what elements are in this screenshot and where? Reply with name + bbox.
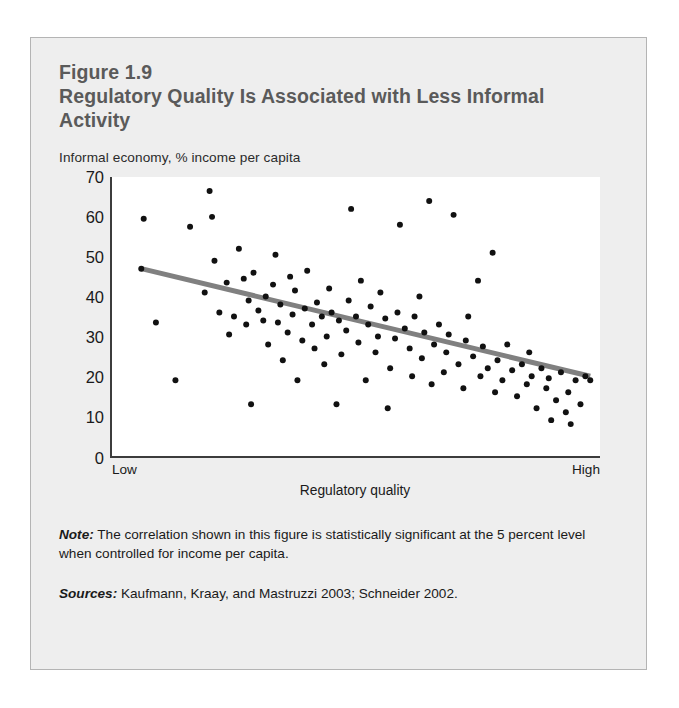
data-point [333, 401, 339, 407]
data-point [346, 297, 352, 303]
data-point [243, 321, 249, 327]
data-points-group [138, 187, 593, 426]
data-point [573, 377, 579, 383]
data-point [553, 397, 559, 403]
data-point [285, 329, 291, 335]
data-point [419, 355, 425, 361]
data-point [236, 245, 242, 251]
data-point [524, 381, 530, 387]
data-point [324, 333, 330, 339]
data-point [309, 321, 315, 327]
data-point [277, 301, 283, 307]
data-point [343, 327, 349, 333]
data-point [348, 205, 354, 211]
data-point [287, 273, 293, 279]
data-point [202, 289, 208, 295]
data-point [409, 373, 415, 379]
data-point [336, 317, 342, 323]
data-point [141, 215, 147, 221]
data-point [504, 341, 510, 347]
data-point [529, 373, 535, 379]
y-axis-tick-label: 30 [60, 328, 104, 347]
data-point [321, 361, 327, 367]
y-axis-tick-label: 50 [60, 247, 104, 266]
data-point [302, 305, 308, 311]
data-point [255, 307, 261, 313]
data-point [558, 369, 564, 375]
data-point [368, 303, 374, 309]
data-point [426, 197, 432, 203]
data-point [358, 277, 364, 283]
sources-lead: Sources: [59, 586, 117, 601]
data-point [499, 377, 505, 383]
data-point [211, 257, 217, 263]
data-point [538, 365, 544, 371]
data-point [577, 401, 583, 407]
data-point [231, 313, 237, 319]
data-point [138, 265, 144, 271]
data-point [338, 351, 344, 357]
y-axis-tick-label: 70 [60, 167, 104, 186]
data-point [465, 313, 471, 319]
data-point [365, 321, 371, 327]
data-point [495, 357, 501, 363]
data-point [397, 221, 403, 227]
data-point [402, 325, 408, 331]
data-point [312, 345, 318, 351]
y-axis-tick-label: 10 [60, 408, 104, 427]
data-point [216, 309, 222, 315]
data-point [375, 333, 381, 339]
data-point [565, 389, 571, 395]
sources-text: Kaufmann, Kraay, and Mastruzzi 2003; Sch… [117, 586, 458, 601]
note-text: The correlation shown in this figure is … [59, 527, 585, 562]
y-axis-tick-labels: 010203040506070 [59, 177, 104, 458]
data-point [387, 365, 393, 371]
data-point [299, 337, 305, 343]
figure-note: Note: The correlation shown in this figu… [59, 525, 607, 565]
data-point [392, 335, 398, 341]
data-point [385, 405, 391, 411]
data-point [265, 341, 271, 347]
data-point [251, 269, 257, 275]
data-point [431, 341, 437, 347]
data-point [568, 421, 574, 427]
data-point [446, 331, 452, 337]
data-point [548, 417, 554, 423]
data-point [363, 377, 369, 383]
data-point [534, 405, 540, 411]
data-point [526, 349, 532, 355]
data-point [272, 251, 278, 257]
data-point [455, 361, 461, 367]
data-point [421, 329, 427, 335]
data-point [492, 389, 498, 395]
data-point [314, 299, 320, 305]
data-point [514, 393, 520, 399]
figure-title: Regulatory Quality Is Associated with Le… [59, 84, 604, 132]
y-axis-tick-label: 40 [60, 287, 104, 306]
data-point [263, 293, 269, 299]
data-point [480, 343, 486, 349]
data-point [209, 213, 215, 219]
data-point [416, 293, 422, 299]
data-point [207, 187, 213, 193]
data-point [477, 373, 483, 379]
figure-number: Figure 1.9 [59, 60, 622, 84]
data-point [241, 275, 247, 281]
figure-sources: Sources: Kaufmann, Kraay, and Mastruzzi … [59, 584, 607, 604]
data-point [270, 281, 276, 287]
x-axis-label-high: High [572, 462, 600, 477]
data-point [407, 345, 413, 351]
data-point [224, 279, 230, 285]
data-point [441, 369, 447, 375]
data-point [429, 381, 435, 387]
data-point [292, 287, 298, 293]
data-point [563, 409, 569, 415]
data-point [546, 375, 552, 381]
data-point [582, 373, 588, 379]
chart-subtitle: Informal economy, % income per capita [59, 150, 622, 165]
note-lead: Note: [59, 527, 94, 542]
data-point [490, 249, 496, 255]
data-point [294, 377, 300, 383]
data-point [329, 309, 335, 315]
data-point [587, 377, 593, 383]
